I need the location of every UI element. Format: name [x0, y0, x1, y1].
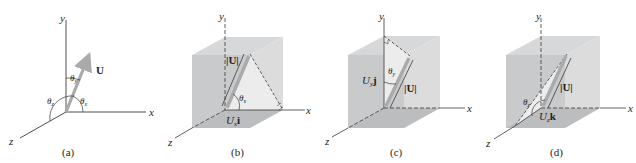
x-axis-label: x [305, 104, 311, 116]
caption-b: (b) [231, 146, 244, 159]
y-axis-label: y [59, 12, 65, 24]
y-axis-label: y [378, 10, 384, 22]
caption-c: (c) [390, 146, 403, 159]
x-axis-label: x [627, 102, 633, 114]
x-axis-label: x [466, 102, 472, 114]
y-axis-label: y [218, 10, 224, 22]
panel-d: y x z |U| θz Uzk (d) [485, 10, 633, 159]
panel-b: y x z |U| θx Uxi (b) [167, 10, 311, 159]
x-axis-label: x [148, 106, 154, 118]
z-axis-label: z [485, 137, 491, 149]
z-axis-label: z [167, 136, 173, 148]
panel-a: y x z U θy θx θz (a) [8, 12, 154, 159]
direction-cosines-figure: y x z U θy θx θz (a) y x z |U| θx Uxi ( [0, 0, 636, 163]
z-axis-label: z [324, 135, 330, 147]
component-label: Uyj [362, 74, 377, 88]
theta-z-label: θz [47, 96, 54, 107]
component-label: Uxi [226, 114, 240, 128]
magnitude-label: |U| [404, 82, 417, 94]
vector-u-label: U [96, 64, 104, 76]
panel-c: y x z |U| θy Uyj (c) [324, 10, 472, 159]
z-axis-label: z [8, 135, 14, 147]
theta-y-label: θy [70, 73, 77, 84]
caption-d: (d) [550, 146, 563, 159]
magnitude-label: |U| [560, 81, 573, 93]
magnitude-label: |U| [226, 54, 239, 66]
caption-a: (a) [62, 146, 75, 159]
y-axis-label: y [535, 10, 541, 22]
theta-x-label: θx [80, 96, 87, 107]
z-axis [20, 112, 66, 138]
